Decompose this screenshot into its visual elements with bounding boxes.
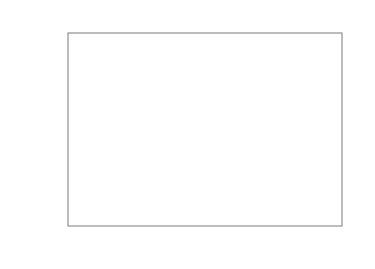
plot-frame (68, 33, 342, 226)
plot-canvas (0, 0, 375, 269)
probability-plot-figure (0, 0, 375, 269)
